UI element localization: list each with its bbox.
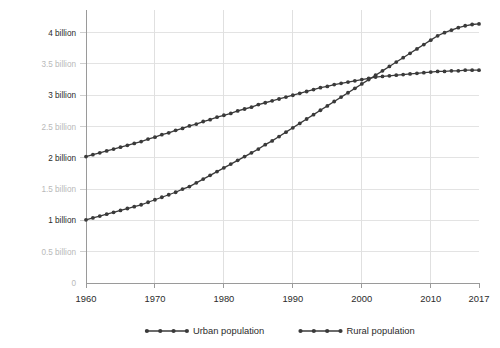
data-point — [332, 100, 336, 104]
data-point — [243, 155, 247, 159]
data-point — [339, 95, 343, 99]
data-point — [208, 173, 212, 177]
data-point — [325, 104, 329, 108]
data-point — [443, 70, 447, 74]
data-point — [291, 126, 295, 130]
data-point — [381, 75, 385, 79]
data-point — [98, 151, 102, 155]
data-point — [181, 127, 185, 131]
data-point — [325, 85, 329, 89]
data-point — [270, 99, 274, 103]
data-point — [250, 151, 254, 155]
data-point — [229, 111, 233, 115]
data-point — [360, 82, 364, 86]
data-point — [236, 109, 240, 113]
data-point — [160, 195, 164, 199]
data-point — [298, 91, 302, 95]
y-axis-tick-label: 3.5 billion — [41, 60, 76, 69]
data-point — [222, 166, 226, 170]
data-point — [401, 56, 405, 60]
data-point — [84, 155, 88, 159]
data-point — [112, 147, 116, 151]
series-urban — [84, 22, 481, 222]
legend-item-rural[interactable]: Rural population — [298, 325, 414, 336]
data-point — [456, 26, 460, 30]
data-point — [222, 113, 226, 117]
data-point — [305, 117, 309, 121]
data-point — [119, 209, 123, 213]
data-point — [256, 103, 260, 107]
data-point — [277, 135, 281, 139]
legend-marker-dot — [145, 329, 149, 333]
data-point — [463, 68, 467, 72]
data-point — [153, 135, 157, 139]
data-point — [339, 81, 343, 85]
data-point — [401, 73, 405, 77]
y-axis-tick-label: 2.5 billion — [41, 123, 76, 132]
legend-marker-dot — [171, 329, 175, 333]
legend-marker-dot — [325, 329, 329, 333]
data-point — [422, 71, 426, 75]
data-point — [387, 65, 391, 69]
data-point — [188, 124, 192, 128]
legend-label: Urban population — [193, 325, 264, 336]
legend-item-urban[interactable]: Urban population — [145, 325, 265, 336]
data-point — [415, 71, 419, 75]
population-line-chart: 00.5 billion1 billion1.5 billion2 billio… — [0, 0, 500, 348]
y-axis-tick-label: 0.5 billion — [41, 248, 76, 257]
y-axis-tick-label: 3 billion — [48, 91, 76, 100]
data-point — [208, 118, 212, 122]
series-line — [86, 24, 479, 220]
data-point — [470, 68, 474, 72]
data-point — [215, 115, 219, 119]
data-point — [270, 139, 274, 143]
data-point — [319, 86, 323, 90]
y-axis-tick-label: 2 billion — [48, 154, 76, 163]
data-point — [194, 181, 198, 185]
legend-marker-dot — [338, 329, 342, 333]
legend-marker-dot — [158, 329, 162, 333]
data-point — [312, 88, 316, 92]
data-point — [408, 72, 412, 76]
data-point — [91, 216, 95, 220]
x-axis-tick-label: 2000 — [351, 293, 372, 304]
data-point — [263, 101, 267, 105]
data-point — [139, 203, 143, 207]
data-point — [91, 153, 95, 157]
x-axis-tick-label: 1970 — [145, 293, 166, 304]
data-point — [188, 185, 192, 189]
x-axis-tick-label: 1980 — [213, 293, 234, 304]
legend-marker-dot — [298, 329, 302, 333]
data-point — [119, 145, 123, 149]
data-point — [450, 69, 454, 73]
x-axis-tick-label: 1990 — [282, 293, 303, 304]
data-point — [408, 51, 412, 55]
legend-label: Rural population — [347, 325, 415, 336]
data-point — [146, 200, 150, 204]
data-point — [174, 128, 178, 132]
series-line — [86, 70, 479, 156]
legend-marker-dot — [312, 329, 316, 333]
data-point — [201, 120, 205, 124]
chart-canvas: 00.5 billion1 billion1.5 billion2 billio… — [0, 0, 500, 348]
x-axis-tick-label: 1960 — [76, 293, 97, 304]
x-axis-tick-label: 2017 — [469, 293, 490, 304]
data-point — [132, 142, 136, 146]
y-axis-tick-label: 0 — [71, 279, 76, 288]
data-point — [387, 74, 391, 78]
data-point — [105, 212, 109, 216]
data-point — [477, 22, 481, 26]
data-point — [215, 170, 219, 174]
data-point — [174, 190, 178, 194]
data-point — [194, 122, 198, 126]
data-point — [98, 214, 102, 218]
data-point — [291, 93, 295, 97]
data-point — [139, 140, 143, 144]
data-point — [346, 80, 350, 84]
data-point — [236, 158, 240, 162]
data-point — [243, 107, 247, 111]
data-point — [284, 95, 288, 99]
data-point — [201, 177, 205, 181]
data-point — [298, 122, 302, 126]
data-point — [353, 86, 357, 90]
